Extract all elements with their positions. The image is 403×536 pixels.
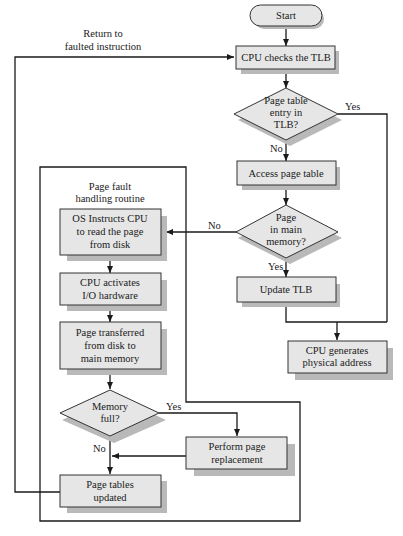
decision-full-line2: full?	[100, 413, 120, 424]
os-instructs-line1: OS Instructs CPU	[72, 213, 148, 224]
page-tables-updated-box: Page tables updated	[60, 475, 167, 513]
cpu-generates-line1: CPU generates	[306, 345, 369, 356]
return-label-line2: faulted instruction	[65, 41, 142, 52]
decision-full-yes-label: Yes	[166, 401, 181, 412]
access-page-table-label: Access page table	[248, 168, 324, 179]
os-instructs-line3: from disk	[90, 239, 131, 250]
update-tlb-box: Update TLB	[237, 277, 340, 307]
page-tables-updated-line2: updated	[93, 492, 127, 503]
perform-replacement-box: Perform page replacement	[186, 437, 295, 476]
routine-label-line2: handling routine	[75, 193, 144, 204]
decision-memory-yes-label: Yes	[268, 261, 283, 272]
os-instructs-box: OS Instructs CPU to read the page from d…	[60, 209, 167, 261]
decision-tlb-yes-label: Yes	[345, 101, 360, 112]
decision-tlb-no-label: No	[270, 143, 283, 154]
arrow-full-yes	[159, 413, 237, 436]
decision-full-line1: Memory	[92, 401, 129, 412]
access-page-table-box: Access page table	[237, 161, 340, 190]
cpu-activates-line1: CPU activates	[80, 277, 140, 288]
start-terminator: Start	[250, 5, 324, 29]
perform-replacement-line2: replacement	[211, 454, 262, 465]
decision-tlb-line3: TLB?	[274, 119, 299, 130]
decision-memory-no-label: No	[208, 220, 221, 231]
update-tlb-label: Update TLB	[260, 284, 313, 295]
decision-memory-line2: in main	[270, 224, 303, 235]
cpu-generates-box: CPU generates physical address	[288, 341, 393, 380]
routine-label-line1: Page fault	[89, 181, 131, 192]
flowchart: Start Return to faulted instruction CPU …	[0, 0, 403, 536]
perform-replacement-line1: Perform page	[209, 441, 266, 452]
cpu-activates-line2: I/O hardware	[82, 290, 138, 301]
decision-tlb-line2: entry in	[270, 107, 303, 118]
os-instructs-line2: to read the page	[77, 226, 144, 237]
page-tables-updated-line1: Page tables	[86, 479, 134, 490]
arrow-tlb-yes	[338, 114, 387, 322]
decision-full-no-label: No	[93, 443, 106, 454]
decision-memory: Page in main memory?	[236, 205, 342, 264]
page-transferred-line1: Page transferred	[76, 327, 145, 338]
cpu-activates-box: CPU activates I/O hardware	[60, 273, 167, 311]
decision-tlb: Page table entry in TLB?	[234, 88, 342, 146]
page-transferred-line2: from disk to	[84, 340, 135, 351]
decision-memory-line3: memory?	[266, 236, 306, 247]
start-label: Start	[276, 10, 296, 21]
cpu-checks-tlb-label: CPU checks the TLB	[241, 52, 330, 63]
decision-tlb-line1: Page table	[264, 95, 308, 106]
return-label-line1: Return to	[83, 28, 122, 39]
cpu-generates-line2: physical address	[302, 357, 371, 368]
cpu-checks-tlb-box: CPU checks the TLB	[236, 46, 339, 74]
page-transferred-box: Page transferred from disk to main memor…	[60, 322, 167, 375]
page-transferred-line3: main memory	[81, 353, 140, 364]
decision-memory-line1: Page	[276, 212, 297, 223]
decision-full: Memory full?	[60, 390, 166, 443]
